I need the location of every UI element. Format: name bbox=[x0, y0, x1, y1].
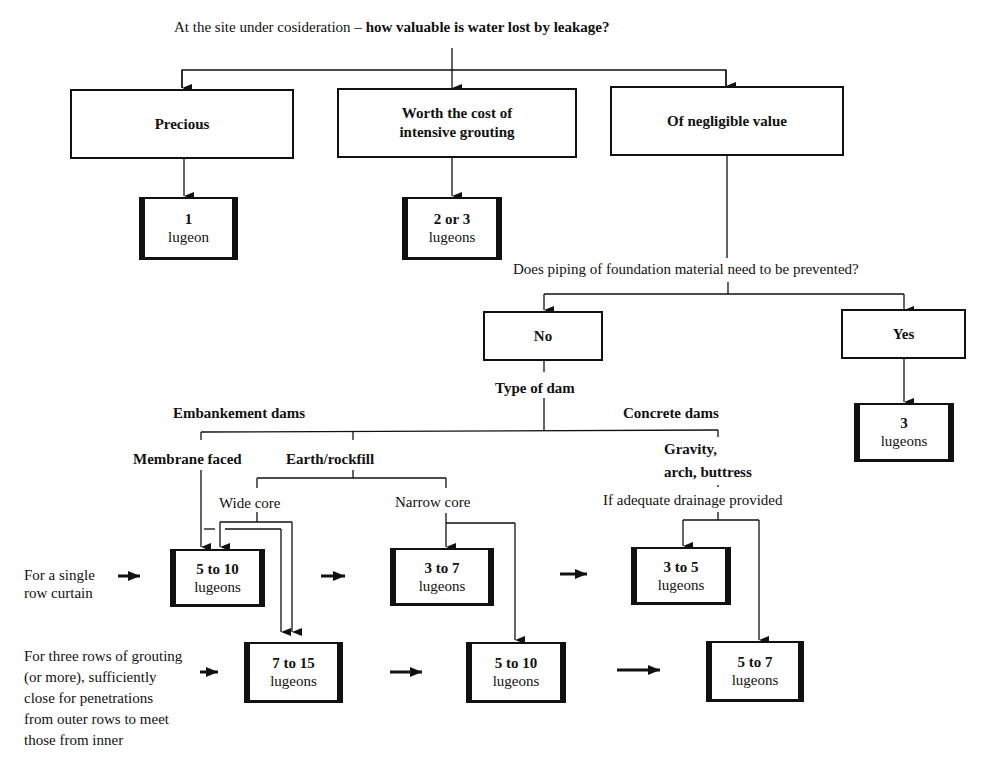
result-single-membrane: 5 to 10 lugeons bbox=[170, 549, 265, 607]
result-unit: lugeon bbox=[168, 228, 209, 246]
result-single-narrow: 3 to 7 lugeons bbox=[390, 548, 494, 606]
result-value: 3 bbox=[900, 414, 908, 432]
label-line: row curtain bbox=[24, 584, 95, 602]
result-unit: lugeons bbox=[493, 672, 540, 690]
result-2-or-3-lugeons: 2 or 3 lugeons bbox=[402, 197, 502, 260]
option-no: No bbox=[483, 311, 603, 361]
label-line: those from inner bbox=[24, 730, 182, 751]
result-three-concrete: 5 to 7 lugeons bbox=[706, 641, 804, 702]
result-unit: lugeons bbox=[429, 228, 476, 246]
option-precious: Precious bbox=[70, 89, 294, 159]
result-value: 5 to 10 bbox=[196, 560, 239, 578]
question-prefix: At the site under cosideration – bbox=[174, 19, 366, 35]
result-unit: lugeons bbox=[732, 671, 779, 689]
option-label-line1: Worth the cost of bbox=[402, 104, 512, 123]
option-label-line2: intensive grouting bbox=[399, 123, 514, 142]
earth-rockfill-label: Earth/rockfill bbox=[286, 450, 374, 468]
gravity-label-line1: Gravity, bbox=[664, 440, 717, 458]
label-line: (or more), sufficiently bbox=[24, 667, 182, 688]
label-line: from outer rows to meet bbox=[24, 709, 182, 730]
type-of-dam-label: Type of dam bbox=[495, 379, 575, 397]
option-worth-cost: Worth the cost of intensive grouting bbox=[337, 88, 577, 158]
result-value: 7 to 15 bbox=[272, 654, 315, 672]
concrete-dams-label: Concrete dams bbox=[623, 404, 719, 422]
result-value: 5 to 10 bbox=[495, 654, 538, 672]
question-bold: how valuable is water lost by leakage? bbox=[366, 19, 610, 35]
result-value: 3 to 7 bbox=[425, 559, 460, 577]
option-label: No bbox=[534, 327, 552, 346]
result-value: 1 bbox=[185, 210, 193, 228]
result-three-narrow: 5 to 10 lugeons bbox=[466, 642, 566, 703]
result-unit: lugeons bbox=[658, 576, 705, 594]
option-label: Yes bbox=[893, 325, 915, 344]
result-yes-3-lugeons: 3 lugeons bbox=[854, 403, 954, 462]
result-unit: lugeons bbox=[270, 672, 317, 690]
result-1-lugeon: 1 lugeon bbox=[139, 197, 238, 260]
wide-core-label: Wide core bbox=[219, 494, 280, 512]
piping-question: Does piping of foundation material need … bbox=[513, 260, 859, 278]
label-line: For a single bbox=[24, 566, 95, 584]
single-row-label: For a single row curtain bbox=[24, 566, 95, 602]
result-value: 5 to 7 bbox=[738, 653, 773, 671]
membrane-faced-label: Membrane faced bbox=[133, 450, 242, 468]
result-three-wide: 7 to 15 lugeons bbox=[244, 642, 343, 703]
result-single-concrete: 3 to 5 lugeons bbox=[631, 547, 731, 605]
option-label: Precious bbox=[155, 115, 210, 134]
three-row-label: For three rows of grouting (or more), su… bbox=[24, 646, 182, 751]
result-unit: lugeons bbox=[881, 432, 928, 450]
main-question: At the site under cosideration – how val… bbox=[174, 18, 610, 36]
result-value: 2 or 3 bbox=[434, 210, 470, 228]
option-label: Of negligible value bbox=[667, 112, 787, 131]
option-negligible: Of negligible value bbox=[610, 86, 844, 156]
result-value: 3 to 5 bbox=[664, 558, 699, 576]
result-unit: lugeons bbox=[194, 578, 241, 596]
narrow-core-label: Narrow core bbox=[395, 493, 470, 511]
embankment-dams-label: Embankement dams bbox=[173, 404, 305, 422]
result-unit: lugeons bbox=[419, 577, 466, 595]
label-line: close for penetrations bbox=[24, 688, 182, 709]
drainage-label: If adequate drainage provided bbox=[603, 491, 783, 509]
label-line: For three rows of grouting bbox=[24, 646, 182, 667]
option-yes: Yes bbox=[841, 309, 966, 359]
gravity-label-line2: arch, buttress bbox=[664, 463, 752, 481]
